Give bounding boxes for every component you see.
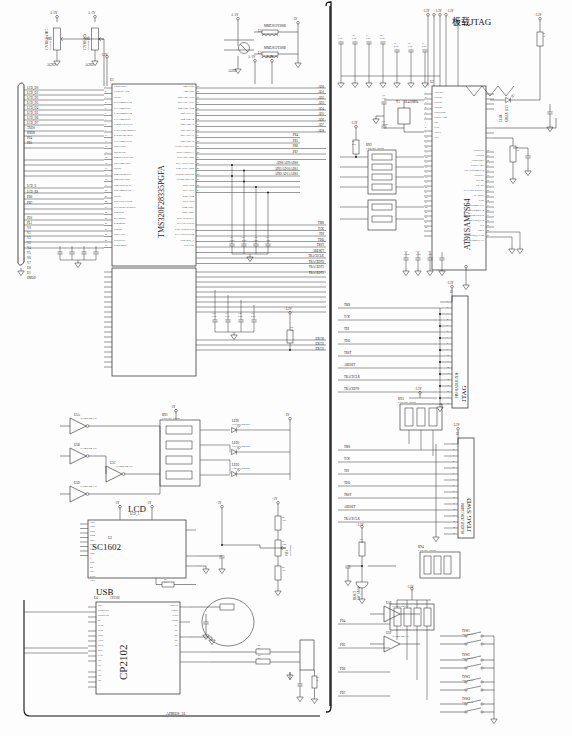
usb-left-pin-8: RXD xyxy=(98,645,103,648)
crystal-refdes: Y1 xyxy=(396,101,400,104)
cap-refdes-4: C5 xyxy=(394,42,396,44)
power-net-a5v-3: A+5V xyxy=(231,14,239,17)
j1-pinnum-14: 15 xyxy=(447,384,449,386)
power-net-3v3-c: +3.3V xyxy=(446,10,454,13)
inverter-refdes-1: U5B xyxy=(74,444,80,447)
cap-refdes-9: C10 xyxy=(254,236,257,238)
arm-left-pin-7: TCK xyxy=(434,127,439,130)
power-net-3v3-d: +3.3V xyxy=(452,18,460,21)
mcu-right-pin-11: AVDDA/VREFHA xyxy=(175,146,194,149)
mcu-left-pinnum-19: 20 xyxy=(105,189,107,191)
arm-left-pinnum-27: 28 xyxy=(425,226,427,228)
mcu-left-pin-21: PC0/T0PL0/INT0 xyxy=(114,201,132,204)
power-net-a5v-1: A+5V xyxy=(50,12,58,15)
arm-right-pinnum-4: 60 xyxy=(487,169,489,171)
div-jtag-net-6: TRACECLK xyxy=(344,376,360,379)
power-net-5v-1: +5V xyxy=(292,18,297,21)
div-jtag-net-1: TCK xyxy=(344,316,350,319)
j1-pinnum-7: 8 xyxy=(447,342,448,344)
arm-right-pin-5: VDDPLL xyxy=(474,175,484,178)
usb-right-pin-2: GND xyxy=(173,615,178,618)
inverter-refdes-0: U5A xyxy=(74,414,80,417)
cap-value-0: 0.1uF xyxy=(338,37,343,39)
arm-left-pin-9: XIN xyxy=(434,137,438,140)
lcd-pin-12: VDD xyxy=(90,576,95,579)
cap-value-6: 0.1uF xyxy=(422,45,427,47)
j2-pinnum-15: 16 xyxy=(453,532,455,534)
left-lower-net-6: V4 xyxy=(27,247,31,250)
mcu-right-pin-21: PD3/AD15 xyxy=(183,201,194,204)
bead2-refdes: L2 xyxy=(258,52,261,55)
mcu-left-pin-1: CVREFP/AN0 xyxy=(114,91,129,94)
arm-left-pinnum-0: 1 xyxy=(425,91,426,93)
cap-value-7: 0.1uF xyxy=(230,239,235,241)
lcd-bus-net-4: LCD_D4 xyxy=(27,107,38,110)
arm-left-pinnum-17: 18 xyxy=(425,176,427,178)
usb-left-pin-1: SUSPEND xyxy=(98,610,109,613)
mcu-left-pinnum-8: 9 xyxy=(105,129,106,131)
mcu-right-pinnum-9: 51 xyxy=(197,134,199,136)
left-lower-net-7: V5 xyxy=(27,252,31,255)
usb-right-pin-1: VBUS xyxy=(171,610,178,613)
cap-refdes-14: C15 xyxy=(251,312,254,314)
cap-value-3: 0.1uF xyxy=(380,37,385,39)
arm-right-pinnum-9: 55 xyxy=(487,194,489,196)
mcu-left-pinnum-1: 2 xyxy=(105,90,106,92)
mcu-right-pin-3: PB1/AD1/AIN1 xyxy=(178,102,194,105)
inverter-refdes-3: U5D xyxy=(74,482,80,485)
cap-value-10: 10pF xyxy=(266,239,270,241)
left-lower-net-12: EMOD xyxy=(27,277,36,280)
bead1-part: MMZ2012Y300B xyxy=(264,25,286,28)
mcu-left-pinnum-10: 11 xyxy=(105,140,107,142)
portb-net-0: PB4 xyxy=(293,134,298,137)
arm-left-pin-6: TDI xyxy=(434,122,438,125)
switch-part-0[interactable]: SW_SNAP xyxy=(462,634,473,637)
cap-refdes-6: C7 xyxy=(422,42,424,44)
mcu-right-pin-17: AVSSB/VREFLB xyxy=(176,179,194,182)
bottom-port-net-3: PD7 xyxy=(340,692,345,695)
mcu-left-pinnum-18: 19 xyxy=(105,184,107,186)
cap-value-1: 0.1uF xyxy=(352,37,357,39)
mcu-right-pin-24: PE0/AD16/INT7 xyxy=(177,218,194,221)
mcu-right-pinnum-16: 44 xyxy=(197,173,199,175)
mcu-left-pinnum-6: 7 xyxy=(105,118,106,120)
mcu-right-pinnum-8: 52 xyxy=(197,129,199,131)
cap-value-4: 4.7uF xyxy=(394,45,399,47)
mcu-left-pinnum-9: 10 xyxy=(105,134,107,136)
switch-part-3[interactable]: SW_SNAP xyxy=(462,702,473,705)
arm-left-pin-4: VDDCORE xyxy=(434,112,446,115)
mcu-right-pin-6: PB4/AD4/A4 xyxy=(180,119,194,122)
arm-left-pinnum-12: 13 xyxy=(425,151,427,153)
j1-pinnum-6: 7 xyxy=(447,336,448,338)
arm-right-pinnum-5: 59 xyxy=(487,174,489,176)
usb-refdes: U4 xyxy=(94,597,98,600)
switch-part-1[interactable]: SW_SNAP xyxy=(462,658,473,661)
portb-net-1: PB5 xyxy=(293,140,298,143)
arm-right-pin-4: TIOA0/PWM0/PA0 xyxy=(464,170,484,173)
res-refdes-7: R8 xyxy=(282,566,284,568)
switch-part-2[interactable]: SW_SNAP xyxy=(462,680,473,683)
ad-net-7: AD7 xyxy=(318,124,324,127)
arm-left-pinnum-19: 20 xyxy=(425,186,427,188)
arm-left-pinnum-1: 2 xyxy=(425,96,426,98)
mcu-left-pin-24: PC3/MISO xyxy=(114,218,125,221)
ad-net-4: AD4 xyxy=(318,108,324,111)
j1-pinnum-2: 3 xyxy=(447,312,448,314)
bottom-port-net-1: PD5 xyxy=(340,644,345,647)
bottom-bus-net-label: ADBUS_31 xyxy=(166,712,186,716)
j2-pinnum-6: 7 xyxy=(453,478,454,480)
arm-left-pinnum-3: 4 xyxy=(425,106,426,108)
power-net-3v3-a: +3.3V xyxy=(422,10,430,13)
left-lower-net-9: V7 xyxy=(27,262,31,265)
jtag-net-7: TRACEDT0 xyxy=(309,261,324,264)
ad-net-1: AD1 xyxy=(318,91,324,94)
mcu-left-pin-6: PA3/TMR3OUT xyxy=(114,119,131,122)
mcu-right-pinnum-10: 50 xyxy=(197,140,199,142)
res-refdes-10: R11 xyxy=(360,538,363,540)
mcu-left-pinnum-15: 16 xyxy=(105,167,107,169)
bottom-port-net-0: PD4 xyxy=(340,620,345,623)
lcd-pin-4: DB3 xyxy=(90,540,95,543)
j1-pinnum-10: 11 xyxy=(447,360,449,362)
resnet-value-1: EXB-38V 10K*4 xyxy=(366,148,384,151)
power-net-3v3-sw: +3.3V xyxy=(406,586,414,589)
